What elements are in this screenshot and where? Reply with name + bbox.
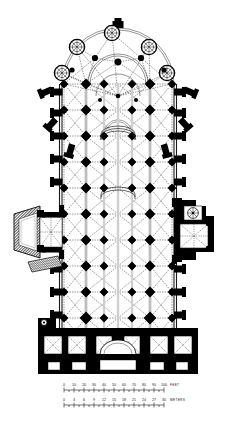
tower-bay [44, 336, 62, 354]
scale-tick-label: 30 [162, 398, 166, 402]
scale-tick-label: 30 [92, 383, 96, 387]
pier [115, 59, 122, 66]
scale-tick-label: 70 [132, 383, 136, 387]
pier [161, 67, 166, 72]
scale-tick-label: 27 [152, 398, 156, 402]
scale-tick-label: 50 [112, 383, 116, 387]
radiating-chapel [141, 39, 156, 54]
buttress [50, 177, 63, 187]
pier [116, 94, 121, 99]
pier [69, 67, 74, 72]
pier [134, 98, 138, 102]
scale-bar-feet: 0 10 20 30 40 50 60 70 80 90 100 FEET [63, 383, 179, 393]
scale-tick-label: 10 [72, 383, 76, 387]
scale-tick-label: 80 [142, 383, 146, 387]
radiating-chapel [104, 25, 119, 40]
scale-tick-label: 18 [122, 398, 126, 402]
scale-tick-label: 6 [83, 398, 85, 402]
pier [98, 98, 102, 102]
plan-svg [0, 0, 236, 380]
scale-unit-label: FEET [170, 383, 179, 387]
scale-tick-label: 9 [93, 398, 95, 402]
buttress [174, 177, 186, 187]
pier [92, 55, 98, 61]
scale-svg: 0 10 20 30 40 50 60 70 80 90 100 FEET [0, 378, 236, 428]
scale-tick-label: 0 [63, 398, 65, 402]
scale-tick-label: 12 [102, 398, 106, 402]
scale-tick-label: 15 [112, 398, 116, 402]
scale-ruler-feet [64, 388, 164, 393]
radiating-chapel [54, 65, 69, 80]
facade-turret [38, 318, 56, 328]
tower-bay [174, 336, 192, 354]
scale-unit-label: METERS [170, 398, 185, 402]
scale-tick-label: 20 [82, 383, 86, 387]
spiral-stair-icon [188, 208, 199, 219]
pier [206, 222, 210, 226]
scale-tick-label: 24 [142, 398, 146, 402]
scale-bars: 0 10 20 30 40 50 60 70 80 90 100 FEET [0, 378, 236, 428]
pier [206, 246, 210, 250]
tower-bay [68, 336, 86, 354]
scale-tick-label: 60 [122, 383, 126, 387]
scale-ruler-meters [64, 403, 164, 408]
pier [37, 210, 44, 217]
scale-tick-label: 40 [102, 383, 106, 387]
scale-tick-label: 100 [161, 383, 167, 387]
scale-tick-label: 3 [73, 398, 75, 402]
scale-bar-meters: 0 3 6 9 12 15 18 21 24 27 30 METERS [63, 398, 185, 408]
pier [37, 245, 44, 252]
floor-plan-drawing [0, 0, 236, 380]
radiating-chapel [69, 39, 84, 54]
scale-tick-label: 90 [152, 383, 156, 387]
radiating-chapel [159, 65, 174, 80]
scale-tick-label: 0 [63, 383, 65, 387]
cathedral-plan-page: 0 10 20 30 40 50 60 70 80 90 100 FEET [0, 0, 236, 428]
pier [138, 55, 144, 61]
tower-bay [150, 336, 168, 354]
scale-tick-label: 21 [132, 398, 136, 402]
